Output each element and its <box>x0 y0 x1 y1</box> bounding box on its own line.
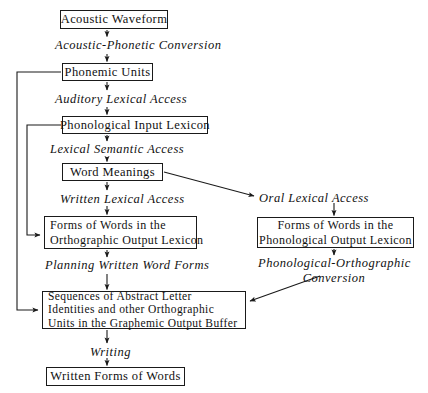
node-word-meanings[interactable]: Word Meanings <box>62 163 163 181</box>
process-label-planning-written-word-forms: Planning Written Word Forms <box>45 258 209 273</box>
node-label-line-2: Phonological Output Lexicon <box>259 233 412 247</box>
node-label: Acoustic Waveform <box>61 12 168 27</box>
process-label-text: Writing <box>90 345 131 360</box>
node-acoustic-waveform[interactable]: Acoustic Waveform <box>60 10 168 29</box>
process-label-auditory-lexical-access: Auditory Lexical Access <box>55 92 187 107</box>
process-label-lexical-semantic-access: Lexical Semantic Access <box>50 142 184 157</box>
node-label: Phonological Input Lexicon <box>60 118 210 133</box>
node-label: Written Forms of Words <box>50 369 180 384</box>
process-label-text-line-2: Conversion <box>258 271 410 286</box>
process-label-oral-lexical-access: Oral Lexical Access <box>259 191 369 206</box>
node-graphemic-output-buffer[interactable]: Sequences of Abstract Letter Identities … <box>42 291 246 329</box>
node-label-line-2: Orthographic Output Lexicon <box>50 233 203 247</box>
node-label-line-1: Forms of Words in the <box>278 218 394 232</box>
node-written-forms-of-words[interactable]: Written Forms of Words <box>46 367 185 386</box>
node-label: Phonemic Units <box>65 65 151 80</box>
process-label-acoustic-phonetic-conversion: Acoustic-Phonetic Conversion <box>55 38 221 53</box>
process-label-text: Acoustic-Phonetic Conversion <box>55 38 221 53</box>
process-label-text: Lexical Semantic Access <box>50 142 184 157</box>
node-label: Word Meanings <box>70 165 155 180</box>
edge-phonemic-feedback-to-buffer <box>17 72 61 310</box>
process-label-text: Oral Lexical Access <box>259 191 369 206</box>
node-phonemic-units[interactable]: Phonemic Units <box>62 63 153 81</box>
flowchart-canvas: Acoustic Waveform Phonemic Units Phonolo… <box>0 0 428 393</box>
node-orthographic-output-lexicon[interactable]: Forms of Words in the Orthographic Outpu… <box>44 216 197 249</box>
node-label-line-3: Units in the Graphemic Output Buffer <box>48 317 238 331</box>
process-label-written-lexical-access: Written Lexical Access <box>60 192 185 207</box>
process-label-text: Planning Written Word Forms <box>45 258 209 273</box>
node-phonological-input-lexicon[interactable]: Phonological Input Lexicon <box>62 116 208 134</box>
process-label-phonological-orthographic-conversion: Phonological-Orthographic Conversion <box>258 256 410 286</box>
process-label-text-line-1: Phonological-Orthographic <box>258 256 410 271</box>
node-label-line-2: Identities and other Orthographic <box>48 303 214 317</box>
node-label-line-1: Sequences of Abstract Letter <box>48 290 192 304</box>
process-label-text: Auditory Lexical Access <box>55 92 187 107</box>
node-phonological-output-lexicon[interactable]: Forms of Words in the Phonological Outpu… <box>257 217 414 248</box>
node-label-line-1: Forms of Words in the <box>50 218 166 232</box>
process-label-text: Written Lexical Access <box>60 192 185 207</box>
process-label-writing: Writing <box>90 345 131 360</box>
